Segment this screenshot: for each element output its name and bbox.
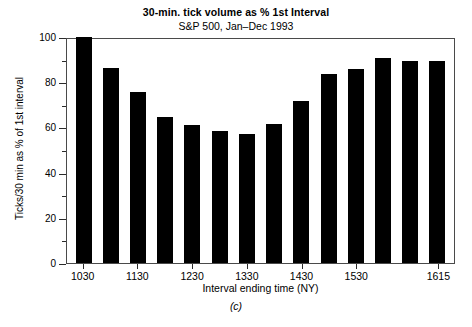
bar-slot (233, 39, 260, 263)
bar-slot (97, 39, 124, 263)
bar-slot (206, 39, 233, 263)
x-axis-tick-label: 1230 (180, 270, 203, 282)
y-axis-tick (59, 219, 66, 220)
y-axis-tick-label: 40 (45, 169, 56, 179)
bar (239, 134, 255, 263)
bar-slot (315, 39, 342, 263)
bar-slot (152, 39, 179, 263)
y-axis: Ticks/30 min as % of 1st interval 020406… (0, 38, 66, 264)
chart-title: 30-min. tick volume as % 1st Interval (0, 6, 472, 19)
bar-series (67, 39, 454, 263)
y-axis-tick (59, 128, 66, 129)
title-block: 30-min. tick volume as % 1st Interval S&… (0, 6, 472, 33)
x-axis-tick (356, 264, 357, 269)
bar (375, 58, 391, 263)
bar (103, 68, 119, 263)
bar-slot (261, 39, 288, 263)
y-axis-tick-label: 0 (50, 259, 56, 269)
x-axis-tick (137, 264, 138, 269)
x-axis-tick (302, 264, 303, 269)
x-axis-tick (83, 264, 84, 269)
x-axis-tick (438, 264, 439, 269)
y-axis-tick (59, 38, 66, 39)
bar (429, 61, 445, 263)
x-axis-tick (192, 264, 193, 269)
x-axis-tick-label: 1430 (290, 270, 313, 282)
bar-slot (288, 39, 315, 263)
y-axis-tick (59, 174, 66, 175)
x-axis-tick-label: 1130 (126, 270, 149, 282)
bar-slot (369, 39, 396, 263)
x-axis-tick-label: 1330 (235, 270, 258, 282)
bar-slot (424, 39, 451, 263)
bar (348, 69, 364, 263)
x-axis-title: Interval ending time (NY) (66, 282, 455, 294)
y-axis-tick-label: 20 (45, 214, 56, 224)
y-axis-tick-label: 80 (45, 78, 56, 88)
x-axis-tick-label: 1030 (71, 270, 94, 282)
x-axis-tick-label: 1530 (345, 270, 368, 282)
chart-subtitle: S&P 500, Jan–Dec 1993 (0, 19, 472, 33)
y-axis-title: Ticks/30 min as % of 1st interval (14, 49, 25, 249)
x-axis-tick (247, 264, 248, 269)
bar (157, 117, 173, 263)
bar-slot (124, 39, 151, 263)
figure-caption: (c) (0, 300, 472, 312)
bar (321, 74, 337, 263)
y-axis-tick-label: 60 (45, 123, 56, 133)
bar (212, 131, 228, 263)
figure-panel: 30-min. tick volume as % 1st Interval S&… (0, 0, 472, 327)
y-axis-tick-label: 100 (39, 33, 56, 43)
bar (76, 37, 92, 263)
bar-slot (342, 39, 369, 263)
y-axis-tick (59, 83, 66, 84)
bar (130, 92, 146, 263)
bar (184, 125, 200, 263)
bar-slot (179, 39, 206, 263)
x-axis-tick-label: 1615 (427, 270, 450, 282)
bar (293, 101, 309, 263)
bar (266, 124, 282, 263)
y-axis-tick (59, 264, 66, 265)
bar (402, 61, 418, 263)
plot-area (66, 38, 455, 264)
bar-slot (397, 39, 424, 263)
bar-slot (70, 39, 97, 263)
